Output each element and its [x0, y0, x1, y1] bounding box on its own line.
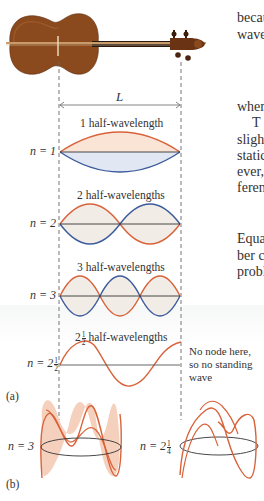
- violin-image: [6, 14, 206, 75]
- mode-n3-label: n = 3: [16, 288, 56, 303]
- mode-n2-5-wave: [60, 341, 181, 386]
- mode-n1-wave: [60, 132, 180, 172]
- caption-suffix: half-wavelengths: [88, 331, 167, 343]
- standing-wave-figure: [0, 0, 264, 501]
- ring-n3-label: n = 3: [8, 439, 34, 454]
- mode-n2-caption: 2 half-wavelengths: [77, 189, 165, 201]
- panel-a-label: (a): [6, 390, 19, 402]
- mode-n2-5-label: n = 212: [8, 356, 58, 372]
- mode-n2-5-caption: 212 half-wavelengths: [75, 331, 168, 346]
- ring-n2-25-label: n = 214: [140, 439, 171, 455]
- mode-n1-caption: 1 half-wavelength: [80, 117, 163, 129]
- length-label: L: [116, 89, 123, 105]
- caption-fraction: 12: [82, 331, 86, 346]
- panel-b-label: (b): [6, 478, 19, 490]
- mode-n2-wave: [60, 204, 180, 244]
- no-node-note: No node here, so no standing wave: [189, 345, 253, 384]
- mode-n3-wave: [60, 276, 180, 316]
- caption-prefix: 2: [75, 331, 81, 343]
- mode-n1-label: n = 1: [16, 144, 56, 159]
- mode-n3-caption: 3 half-wavelengths: [77, 261, 165, 273]
- ring-mode-n2-25: [180, 401, 258, 478]
- mode-n2-label: n = 2: [16, 216, 56, 231]
- ring-mode-n3: [41, 400, 122, 478]
